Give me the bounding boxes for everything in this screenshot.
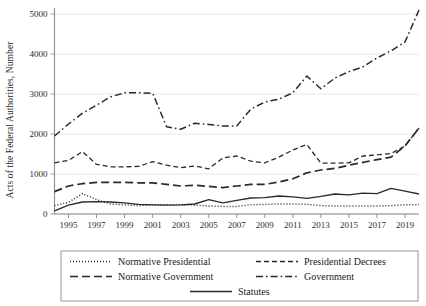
legend-item-normative-government[interactable]: Normative Government xyxy=(70,271,213,282)
x-axis-ticks: 1995199719992001200320052007200920112013… xyxy=(60,214,415,230)
legend-item-statutes[interactable]: Statutes xyxy=(190,286,270,297)
x-tick-label: 1997 xyxy=(88,220,107,230)
y-axis-label: Acts of the Federal Authorities, Number xyxy=(5,41,15,199)
x-tick-label: 2005 xyxy=(200,220,219,230)
x-tick-label: 1995 xyxy=(60,220,79,230)
y-tick-label: 2000 xyxy=(30,129,49,139)
series-line-normative-government xyxy=(55,128,420,192)
x-tick-label: 2013 xyxy=(312,220,331,230)
y-tick-label: 5000 xyxy=(30,9,49,19)
y-tick-label: 3000 xyxy=(30,89,49,99)
x-tick-label: 2007 xyxy=(228,220,247,230)
chart-container: 010002000300040005000 199519971999200120… xyxy=(0,0,426,306)
x-tick-label: 2009 xyxy=(256,220,275,230)
x-tick-label: 2017 xyxy=(368,220,387,230)
x-tick-label: 2015 xyxy=(340,220,359,230)
x-tick-label: 2019 xyxy=(396,220,415,230)
gridlines xyxy=(55,14,420,214)
line-chart: 010002000300040005000 199519971999200120… xyxy=(0,0,426,306)
y-axis-ticks: 010002000300040005000 xyxy=(30,9,55,219)
legend-label: Normative Government xyxy=(118,271,213,282)
y-tick-label: 0 xyxy=(43,209,48,219)
data-series xyxy=(55,10,420,211)
series-line-government xyxy=(55,10,420,136)
legend-item-normative-presidential[interactable]: Normative Presidential xyxy=(70,256,211,267)
legend-label: Normative Presidential xyxy=(118,256,211,267)
legend-item-presidential-decrees[interactable]: Presidential Decrees xyxy=(256,256,386,267)
legend-item-government[interactable]: Government xyxy=(256,271,354,282)
legend-label: Government xyxy=(304,271,354,282)
legend-label: Presidential Decrees xyxy=(304,256,386,267)
y-tick-label: 1000 xyxy=(30,169,49,179)
series-line-statutes xyxy=(55,188,420,210)
chart-legend: Normative PresidentialPresidential Decre… xyxy=(61,251,418,301)
axes xyxy=(55,8,420,214)
x-tick-label: 2011 xyxy=(284,220,302,230)
legend-label: Statutes xyxy=(238,286,270,297)
x-tick-label: 2001 xyxy=(144,220,162,230)
y-tick-label: 4000 xyxy=(30,49,49,59)
x-tick-label: 1999 xyxy=(116,220,135,230)
x-tick-label: 2003 xyxy=(172,220,191,230)
